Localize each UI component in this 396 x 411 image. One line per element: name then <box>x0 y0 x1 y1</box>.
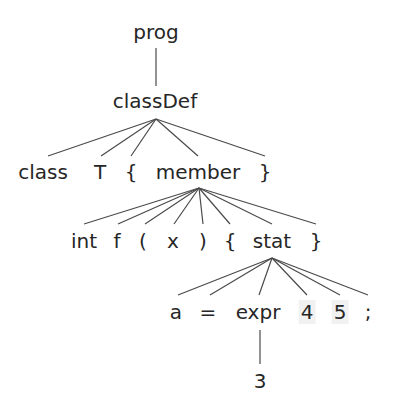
node-four: 4 <box>299 300 316 324</box>
edge-member-int <box>84 188 199 224</box>
edge-member-rbrace2 <box>199 188 316 224</box>
node-f: f <box>113 231 120 251</box>
node-a: a <box>170 302 182 322</box>
edge-member-lbrace2 <box>199 188 230 224</box>
node-member: member <box>156 162 241 182</box>
edge-member-rparen <box>199 188 203 224</box>
edge-stat-semi <box>272 258 368 295</box>
node-int: int <box>71 231 97 251</box>
edge-classDef-member <box>156 119 198 156</box>
edge-member-stat <box>199 188 272 224</box>
parse-tree-diagram: progclassDefclassT{member}intf(x){stat}a… <box>0 0 396 411</box>
node-x: x <box>167 231 179 251</box>
edge-stat-expr <box>259 258 272 295</box>
edge-classDef-T <box>101 119 156 156</box>
node-lbrace2: { <box>224 231 237 251</box>
node-five: 5 <box>332 300 349 324</box>
node-lparen: ( <box>139 231 147 251</box>
node-T: T <box>94 162 106 182</box>
edge-classDef-class <box>48 119 156 156</box>
node-rparen: ) <box>199 231 207 251</box>
node-eq: = <box>200 302 217 322</box>
node-rbrace2: } <box>310 231 323 251</box>
edge-member-lparen <box>145 188 199 224</box>
node-rbrace1: } <box>259 162 272 182</box>
node-prog: prog <box>133 22 178 42</box>
edge-classDef-lbrace1 <box>131 119 156 156</box>
node-semi: ; <box>365 302 372 322</box>
node-stat: stat <box>253 231 291 251</box>
edge-stat-eq <box>210 258 272 295</box>
node-expr: expr <box>236 302 281 322</box>
node-classDef: classDef <box>113 91 197 111</box>
node-class: class <box>18 162 68 182</box>
edge-stat-four <box>272 258 307 295</box>
edge-stat-a <box>178 258 272 295</box>
node-three: 3 <box>254 371 267 391</box>
edge-classDef-rbrace1 <box>156 119 265 156</box>
edge-stat-five <box>272 258 340 295</box>
tree-edges <box>0 0 396 411</box>
node-lbrace1: { <box>125 162 138 182</box>
